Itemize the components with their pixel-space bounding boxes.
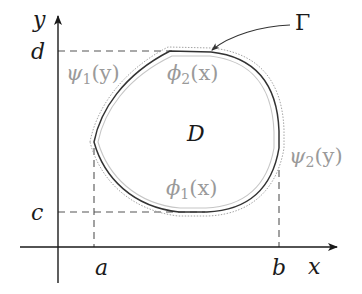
tick-label-a: a [95,255,108,280]
psi2-label: ψ2(y) [289,144,343,170]
gamma-pointer-arrow [212,25,290,50]
phi2-symbol: ϕ [167,61,181,85]
psi1-arg: (y) [91,61,119,85]
psi2-arg: (y) [314,144,342,168]
x-axis-label: x [308,254,321,279]
phi1-label: ϕ1(x) [166,176,217,202]
boundary-label-gamma: Γ [295,10,310,35]
psi2-symbol: ψ [289,144,306,168]
tick-label-b: b [272,255,286,280]
psi1-subscript: 1 [82,71,91,87]
region-label-D: D [186,121,205,146]
tick-label-d: d [31,39,45,64]
phi2-subscript: 2 [181,71,190,87]
psi2-subscript: 2 [305,154,314,170]
psi1-symbol: ψ [66,61,83,85]
phi1-symbol: ϕ [166,176,180,200]
phi2-arg: (x) [190,61,218,85]
y-axis-label: y [32,7,46,32]
region-diagram: y x d c a b D Γ ψ1(y) ϕ2(x) ϕ1(x) ψ2(y) [0,0,362,294]
psi1-label: ψ1(y) [66,61,120,87]
phi1-arg: (x) [189,176,217,200]
phi2-label: ϕ2(x) [167,61,218,87]
phi1-subscript: 1 [180,186,189,202]
tick-label-c: c [31,200,43,225]
